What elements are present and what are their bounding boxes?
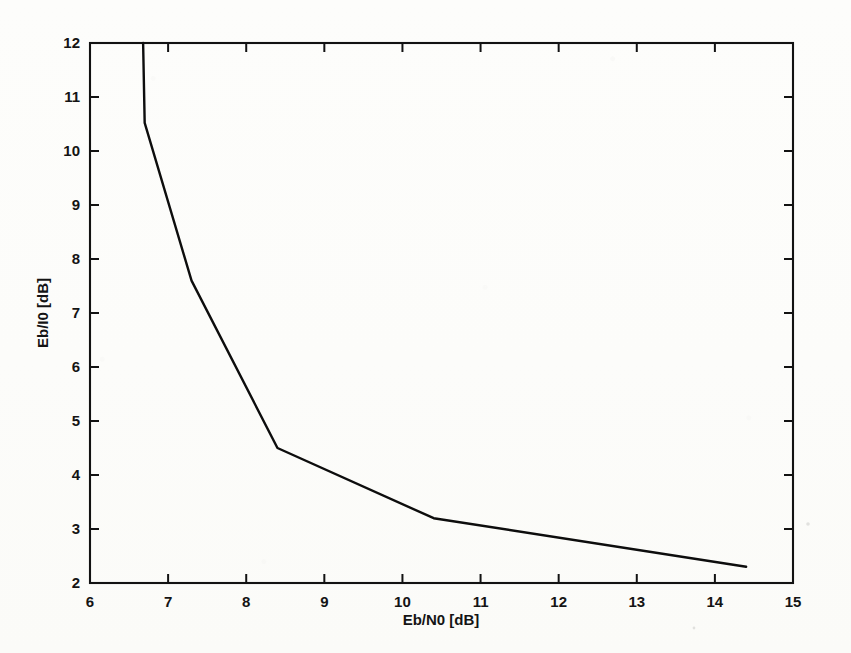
x-axis-tick-labels: 6789101112131415 (86, 593, 802, 610)
y-tick-label: 8 (72, 250, 80, 267)
data-series-line (143, 43, 746, 567)
x-tick-label: 12 (550, 593, 567, 610)
y-axis-title: Eb/I0 [dB] (34, 278, 51, 348)
x-axis-tick-marks (168, 43, 715, 583)
x-tick-label: 7 (164, 593, 172, 610)
y-axis-tick-marks (90, 97, 793, 529)
y-tick-label: 3 (72, 520, 80, 537)
x-tick-label: 8 (242, 593, 250, 610)
plot-axes-box (90, 43, 793, 583)
y-tick-label: 2 (72, 574, 80, 591)
x-tick-label: 10 (394, 593, 411, 610)
y-tick-label: 5 (72, 412, 80, 429)
chart-figure: 6789101112131415 23456789101112 Eb/N0 [d… (0, 0, 851, 653)
x-tick-label: 11 (473, 593, 489, 610)
x-tick-label: 6 (86, 593, 94, 610)
plot-svg: 6789101112131415 23456789101112 Eb/N0 [d… (0, 0, 851, 653)
y-tick-label: 10 (63, 142, 80, 159)
x-tick-label: 15 (785, 593, 802, 610)
y-tick-label: 7 (72, 304, 80, 321)
y-tick-label: 12 (63, 34, 80, 51)
x-axis-title: Eb/N0 [dB] (403, 611, 480, 628)
x-tick-label: 9 (320, 593, 328, 610)
x-tick-label: 14 (707, 593, 724, 610)
scan-speck (806, 522, 810, 526)
y-axis-tick-labels: 23456789101112 (63, 34, 80, 591)
scan-speck (693, 627, 696, 630)
y-tick-label: 6 (72, 358, 80, 375)
y-tick-label: 4 (72, 466, 81, 483)
y-tick-label: 9 (72, 196, 80, 213)
y-tick-label: 11 (64, 88, 80, 105)
x-tick-label: 13 (628, 593, 645, 610)
